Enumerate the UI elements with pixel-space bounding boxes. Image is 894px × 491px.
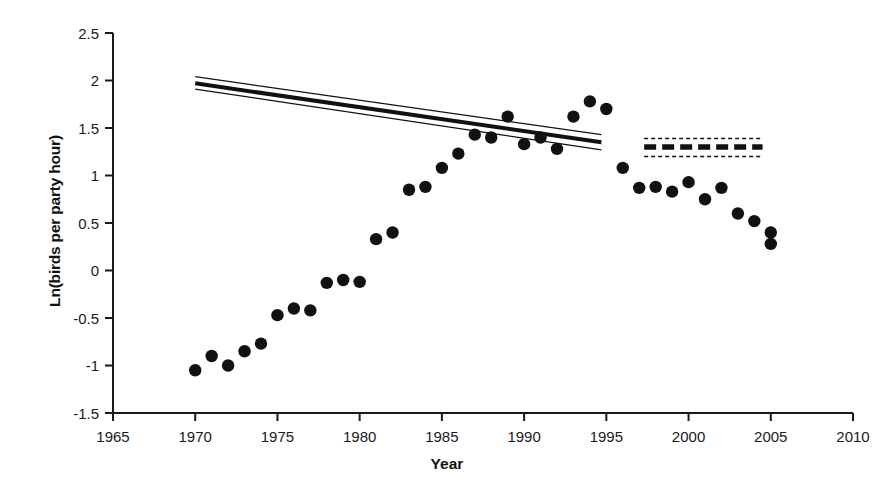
trend-lines-group (195, 77, 762, 157)
x-axis-title: Year (0, 455, 894, 473)
x-tick-label: 1965 (96, 428, 129, 445)
x-tick-label: 1970 (179, 428, 212, 445)
data-point (584, 95, 596, 107)
x-tick-label: 2000 (672, 428, 705, 445)
data-point (386, 226, 398, 238)
y-tick-label: 2 (91, 72, 99, 89)
data-point (370, 233, 382, 245)
x-axis-ticks (113, 413, 853, 421)
scatter-plot-canvas: -1.5-1-0.500.511.522.5 19651970197519801… (0, 0, 894, 491)
data-point (600, 103, 612, 115)
x-tick-label: 1980 (343, 428, 376, 445)
data-point (222, 359, 234, 371)
y-tick-label: -1 (86, 357, 99, 374)
data-point (501, 110, 513, 122)
data-point (765, 226, 777, 238)
data-point (353, 276, 365, 288)
data-point (304, 304, 316, 316)
x-tick-label: 2010 (836, 428, 869, 445)
data-point (518, 138, 530, 150)
data-point (321, 277, 333, 289)
x-tick-label: 2005 (754, 428, 787, 445)
data-point (419, 181, 431, 193)
data-point (534, 131, 546, 143)
data-point (666, 185, 678, 197)
data-point (205, 350, 217, 362)
x-tick-label: 1985 (425, 428, 458, 445)
y-tick-label: 0.5 (78, 215, 99, 232)
y-tick-label: -1.5 (73, 405, 99, 422)
y-axis-tick-labels: -1.5-1-0.500.511.522.5 (73, 25, 99, 422)
axis-lines (113, 33, 853, 413)
y-tick-label: 1.5 (78, 120, 99, 137)
data-point (682, 176, 694, 188)
y-tick-label: -0.5 (73, 310, 99, 327)
data-point (699, 193, 711, 205)
data-point (748, 215, 760, 227)
data-points-group (189, 95, 777, 376)
data-point (485, 131, 497, 143)
chart-figure: -1.5-1-0.500.511.522.5 19651970197519801… (0, 0, 894, 491)
data-point (649, 181, 661, 193)
data-point (271, 309, 283, 321)
data-point (255, 337, 267, 349)
x-tick-label: 1975 (261, 428, 294, 445)
y-tick-label: 1 (91, 167, 99, 184)
y-axis-ticks (105, 33, 113, 413)
data-point (403, 184, 415, 196)
declining-trend-solid-ci-upper (195, 77, 601, 135)
data-point (715, 182, 727, 194)
data-point (288, 302, 300, 314)
data-point (469, 128, 481, 140)
data-point (567, 110, 579, 122)
data-point (732, 207, 744, 219)
y-tick-label: 0 (91, 262, 99, 279)
data-point (452, 147, 464, 159)
data-point (337, 274, 349, 286)
data-point (436, 162, 448, 174)
x-tick-label: 1995 (590, 428, 623, 445)
data-point (189, 364, 201, 376)
x-axis-tick-labels: 1965197019751980198519901995200020052010 (96, 428, 869, 445)
data-point (617, 162, 629, 174)
data-point (633, 182, 645, 194)
data-point (551, 143, 563, 155)
data-point (238, 345, 250, 357)
data-point (765, 238, 777, 250)
y-tick-label: 2.5 (78, 25, 99, 42)
x-tick-label: 1990 (507, 428, 540, 445)
y-axis-title: Ln(birds per party hour) (46, 71, 64, 371)
